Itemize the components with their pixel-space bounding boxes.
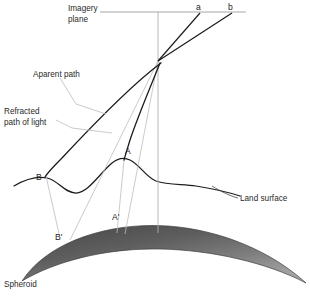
figure-background bbox=[0, 0, 310, 296]
label-imagery-plane-line2: plane bbox=[68, 15, 88, 24]
label-imagery-plane-line1: Imagery bbox=[68, 4, 98, 13]
label-point-b: B bbox=[36, 172, 42, 182]
label-apparent-path: Aparent path bbox=[33, 70, 80, 79]
label-ray-a: a bbox=[196, 2, 201, 12]
label-refracted-line2: path of light bbox=[4, 118, 47, 127]
label-refracted-line1: Refracted bbox=[4, 107, 40, 116]
figure-canvas: Imagery plane Aparent path Refracted pat… bbox=[0, 0, 310, 296]
label-point-a: A bbox=[125, 146, 131, 156]
label-land-surface: Land surface bbox=[240, 194, 288, 203]
label-point-a-prime: A' bbox=[112, 212, 120, 222]
label-ray-b: b bbox=[228, 2, 233, 12]
label-spheroid: Spheroid bbox=[4, 280, 37, 289]
refraction-diagram: Imagery plane Aparent path Refracted pat… bbox=[0, 0, 310, 296]
label-point-b-prime: B' bbox=[55, 232, 63, 242]
